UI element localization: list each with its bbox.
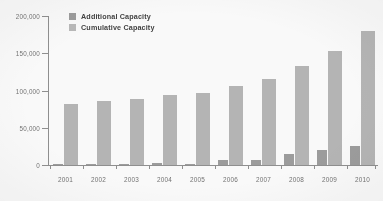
- bar-cumulative-capacity: [64, 104, 78, 165]
- x-axis-tick-label: 2001: [58, 176, 73, 183]
- x-axis-tick-label: 2002: [91, 176, 106, 183]
- x-axis-tick: [182, 166, 183, 169]
- x-axis-tick-label: 2010: [355, 176, 370, 183]
- bar-additional-capacity: [86, 164, 96, 165]
- y-axis-tick: [42, 165, 48, 166]
- x-axis-tick: [50, 166, 51, 169]
- y-axis-tick-label: 150,000: [16, 50, 40, 57]
- bar-additional-capacity: [284, 154, 294, 165]
- y-axis-tick-label: 50,000: [20, 124, 40, 131]
- y-axis-tick-label: 100,000: [16, 87, 40, 94]
- x-axis-tick-label: 2005: [190, 176, 205, 183]
- bar-cumulative-capacity: [130, 99, 144, 165]
- x-axis-tick-label: 2007: [256, 176, 271, 183]
- x-axis-tick-label: 2006: [223, 176, 238, 183]
- x-axis-tick-label: 2003: [124, 176, 139, 183]
- bar-additional-capacity: [350, 146, 360, 165]
- x-axis-tick: [248, 166, 249, 169]
- bar-additional-capacity: [53, 164, 63, 165]
- x-axis-tick-label: 2009: [322, 176, 337, 183]
- bar-cumulative-capacity: [97, 101, 111, 165]
- bar-additional-capacity: [152, 163, 162, 165]
- x-axis-tick: [314, 166, 315, 169]
- bar-cumulative-capacity: [163, 95, 177, 165]
- x-axis-tick: [281, 166, 282, 169]
- x-axis-spine: [48, 165, 378, 166]
- x-axis-tick: [347, 166, 348, 169]
- bar-additional-capacity: [218, 160, 228, 165]
- bar-cumulative-capacity: [361, 31, 375, 165]
- bar-additional-capacity: [119, 164, 129, 165]
- chart-screenshot: Additional Capacity Cumulative Capacity …: [0, 0, 383, 201]
- x-axis-tick: [215, 166, 216, 169]
- y-axis-tick-label: 200,000: [16, 13, 40, 20]
- bar-cumulative-capacity: [229, 86, 243, 165]
- bar-cumulative-capacity: [328, 51, 342, 165]
- bar-cumulative-capacity: [262, 79, 276, 165]
- y-axis-tick-label: 0: [36, 162, 40, 169]
- bar-cumulative-capacity: [196, 93, 210, 165]
- bar-additional-capacity: [251, 160, 261, 165]
- x-axis-tick: [149, 166, 150, 169]
- x-axis-tick: [83, 166, 84, 169]
- plot-area: [48, 16, 378, 165]
- x-axis-tick-label: 2004: [157, 176, 172, 183]
- x-axis-tick-label: 2008: [289, 176, 304, 183]
- x-axis-tick: [116, 166, 117, 169]
- bar-additional-capacity: [185, 164, 195, 165]
- bar-cumulative-capacity: [295, 66, 309, 165]
- x-axis-tick: [375, 166, 376, 169]
- bar-additional-capacity: [317, 150, 327, 165]
